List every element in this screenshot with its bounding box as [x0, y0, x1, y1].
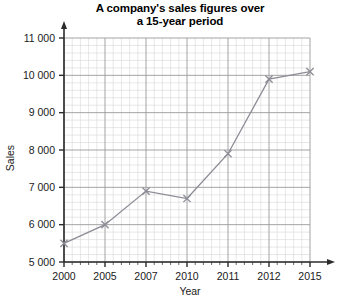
- y-tick-label: 5 000: [29, 256, 55, 268]
- y-tick-label: 9 000: [29, 106, 55, 118]
- x-tick-label: 2000: [52, 270, 76, 282]
- y-tick-label: 7 000: [29, 181, 55, 193]
- x-axis-title: Year: [179, 285, 201, 297]
- y-tick-label: 10 000: [23, 69, 55, 81]
- y-axis-title: Sales: [4, 145, 16, 171]
- x-tick-label: 2015: [298, 270, 322, 282]
- x-tick-label: 2011: [217, 270, 240, 282]
- line-chart-plot: 11 00010 0009 0008 0007 0006 0005 000 20…: [0, 0, 337, 301]
- x-tick-label: 2012: [257, 270, 281, 282]
- x-tick-label: 2005: [93, 270, 117, 282]
- x-tick-label: 2010: [175, 270, 199, 282]
- x-axis-tick-labels: 2000200520072010201120122015: [52, 270, 322, 282]
- y-tick-label: 8 000: [29, 144, 55, 156]
- y-axis-tick-labels: 11 00010 0009 0008 0007 0006 0005 000: [23, 32, 55, 268]
- x-tick-label: 2007: [134, 270, 158, 282]
- y-tick-label: 11 000: [24, 32, 55, 44]
- major-gridlines: [64, 38, 310, 262]
- chart-container: A company's sales figures over a 15-year…: [0, 0, 337, 301]
- y-tick-label: 6 000: [29, 218, 55, 230]
